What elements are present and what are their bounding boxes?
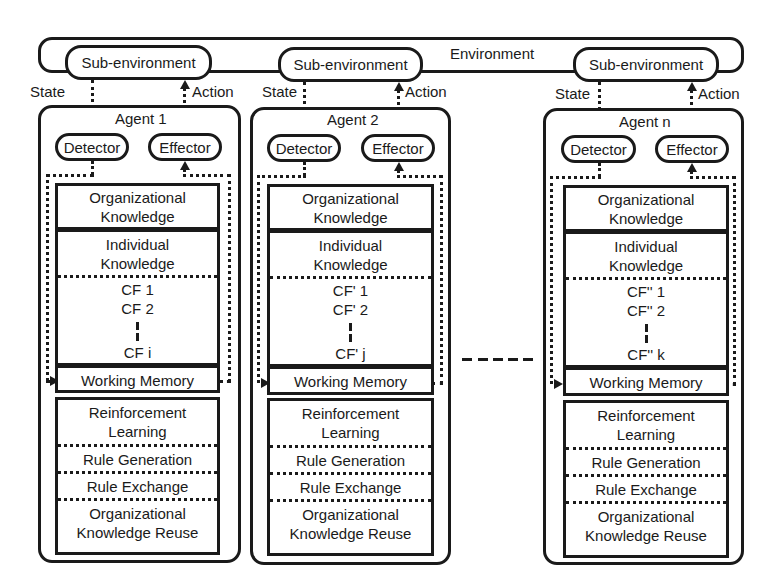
rule-exchange[interactable]: Rule Exchange <box>566 477 726 504</box>
left-loop-top <box>550 176 601 179</box>
effector-in-line <box>690 171 693 179</box>
organizational-knowledge[interactable]: Organizational Knowledge <box>566 188 726 234</box>
rule-generation[interactable]: Rule Generation <box>270 448 431 475</box>
state-label: State <box>262 83 297 100</box>
vertical-ellipsis <box>136 322 139 330</box>
right-loop-side <box>733 176 736 385</box>
action-arrow-head <box>180 80 190 89</box>
right-loop-bottom <box>219 380 231 383</box>
effector-in-line <box>183 169 186 177</box>
agent-title: Agent 1 <box>115 110 167 127</box>
cf-item[interactable]: CF' 1 <box>333 281 368 300</box>
effector-in-line <box>397 170 400 178</box>
right-loop-top <box>183 174 230 177</box>
vertical-ellipsis <box>645 324 648 332</box>
cf-item[interactable]: CF i <box>124 343 152 362</box>
detector-out-line <box>598 163 601 177</box>
right-loop-side <box>228 174 231 382</box>
action-label: Action <box>192 83 234 100</box>
sub-environment-node[interactable]: Sub-environment <box>65 45 212 80</box>
learning-stack: Reinforcement Learning Rule Generation R… <box>563 400 729 558</box>
working-memory[interactable]: Working Memory <box>566 370 726 394</box>
organizational-knowledge-reuse[interactable]: Organizational Knowledge Reuse <box>270 502 431 546</box>
classifier-list: CF 1 CF 2 CF i <box>58 278 217 368</box>
effector-node[interactable]: Effector <box>361 134 435 162</box>
agent-group-1: Sub-environment State Action Agent 1 Det… <box>38 0 242 573</box>
agent-title: Agent 2 <box>327 111 379 128</box>
learning-stack: Reinforcement Learning Rule Generation R… <box>55 397 220 555</box>
reinforcement-learning[interactable]: Reinforcement Learning <box>58 400 217 447</box>
action-label: Action <box>405 83 447 100</box>
cf-item[interactable]: CF'' k <box>627 345 664 364</box>
state-label: State <box>555 85 590 102</box>
cf-item[interactable]: CF 1 <box>121 280 154 299</box>
right-loop-side <box>440 175 443 384</box>
knowledge-stack: Organizational Knowledge Individual Know… <box>55 183 220 393</box>
vertical-ellipsis <box>349 323 352 331</box>
individual-knowledge[interactable]: Individual Knowledge <box>58 232 217 278</box>
working-memory[interactable]: Working Memory <box>58 368 217 392</box>
cf-item[interactable]: CF' 2 <box>333 300 368 319</box>
left-loop-side <box>550 176 553 384</box>
left-loop-side <box>257 175 260 383</box>
detector-node[interactable]: Detector <box>267 134 341 162</box>
cf-item[interactable]: CF'' 1 <box>627 282 665 301</box>
learning-stack: Reinforcement Learning Rule Generation R… <box>267 398 434 556</box>
reinforcement-learning[interactable]: Reinforcement Learning <box>566 403 726 450</box>
detector-node[interactable]: Detector <box>561 135 636 163</box>
wm-in-arrow <box>554 379 563 389</box>
organizational-knowledge-reuse[interactable]: Organizational Knowledge Reuse <box>58 501 217 545</box>
organizational-knowledge-reuse[interactable]: Organizational Knowledge Reuse <box>566 504 726 548</box>
sub-environment-node[interactable]: Sub-environment <box>278 47 423 82</box>
classifier-list: CF'' 1 CF'' 2 CF'' k <box>566 280 726 370</box>
detector-out-line <box>91 161 94 175</box>
individual-knowledge[interactable]: Individual Knowledge <box>566 234 726 280</box>
effector-in-arrow <box>180 161 190 170</box>
right-loop-top <box>397 175 442 178</box>
cf-item[interactable]: CF 2 <box>121 299 154 318</box>
classifier-list: CF' 1 CF' 2 CF' j <box>270 279 431 369</box>
cf-item[interactable]: CF' j <box>335 344 365 363</box>
rule-generation[interactable]: Rule Generation <box>566 450 726 477</box>
effector-node[interactable]: Effector <box>148 133 222 161</box>
organizational-knowledge[interactable]: Organizational Knowledge <box>270 187 431 233</box>
right-loop-top <box>690 176 735 179</box>
rule-exchange[interactable]: Rule Exchange <box>58 474 217 501</box>
left-loop-top <box>46 174 94 177</box>
sub-environment-node[interactable]: Sub-environment <box>573 47 719 82</box>
knowledge-stack: Organizational Knowledge Individual Know… <box>267 184 434 395</box>
rule-generation[interactable]: Rule Generation <box>58 447 217 474</box>
knowledge-stack: Organizational Knowledge Individual Know… <box>563 185 729 396</box>
organizational-knowledge[interactable]: Organizational Knowledge <box>58 186 217 232</box>
effector-node[interactable]: Effector <box>655 135 729 163</box>
rule-exchange[interactable]: Rule Exchange <box>270 475 431 502</box>
working-memory[interactable]: Working Memory <box>270 369 431 393</box>
individual-knowledge[interactable]: Individual Knowledge <box>270 233 431 279</box>
effector-in-arrow <box>687 163 697 172</box>
detector-out-line <box>303 162 306 176</box>
agent-group-n: Sub-environment State Action Agent n Det… <box>543 3 747 573</box>
detector-node[interactable]: Detector <box>55 133 129 161</box>
agent-title: Agent n <box>619 113 671 130</box>
cf-item[interactable]: CF'' 2 <box>627 301 665 320</box>
action-arrow-head <box>687 82 697 91</box>
effector-in-arrow <box>394 162 404 171</box>
reinforcement-learning[interactable]: Reinforcement Learning <box>270 401 431 448</box>
environment-label: Environment <box>450 45 534 62</box>
state-label: State <box>30 83 65 100</box>
action-arrow-head <box>394 82 404 91</box>
left-loop-side <box>46 174 49 381</box>
left-loop-top <box>257 175 306 178</box>
action-label: Action <box>698 85 740 102</box>
agent-group-2: Sub-environment State Action Agent 2 Det… <box>250 2 454 573</box>
ellipsis-dashes <box>462 358 534 361</box>
